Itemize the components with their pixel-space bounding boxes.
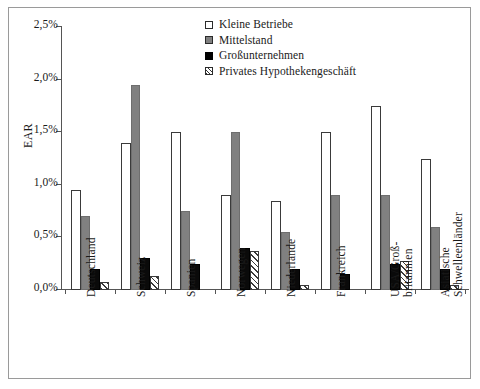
bar xyxy=(100,282,110,290)
bar xyxy=(221,195,231,290)
x-axis-category-label: Norwegen xyxy=(235,248,248,298)
bar xyxy=(150,276,160,290)
y-axis-tick-label: 2,0% xyxy=(34,71,58,83)
x-axis-category-label: Deutschland xyxy=(85,237,98,297)
x-axis-tick-mark xyxy=(215,290,216,294)
x-axis-category-label: Schweiz xyxy=(135,257,148,297)
bar xyxy=(71,190,81,290)
x-axis-tick-mark xyxy=(465,290,466,294)
x-axis-category-label: Frankreich xyxy=(335,245,348,297)
x-axis-tick-mark xyxy=(315,290,316,294)
y-axis-tick-label: 1,0% xyxy=(34,176,58,188)
x-axis-tick-mark xyxy=(415,290,416,294)
x-axis-category-label: USA/Groß-britannien xyxy=(389,242,414,297)
y-axis-tick-label: 1,5% xyxy=(34,123,58,135)
x-axis-tick-mark xyxy=(65,290,66,294)
chart-figure-frame: Kleine Betriebe Mittelstand Großunterneh… xyxy=(8,7,471,379)
x-axis-tick-mark xyxy=(265,290,266,294)
bar xyxy=(171,132,181,290)
x-axis-tick-mark xyxy=(165,290,166,294)
y-axis-line xyxy=(61,26,62,290)
x-axis-category-label: AsiatischeSchwelleenländer xyxy=(439,212,464,297)
bar xyxy=(121,143,131,290)
bar xyxy=(321,132,331,290)
bar xyxy=(421,159,431,291)
y-axis-tick-label: 2,5% xyxy=(34,18,58,30)
bar xyxy=(250,251,260,290)
x-axis-category-label: Niederlande xyxy=(285,239,298,297)
y-axis-tick-label: 0,5% xyxy=(34,228,58,240)
bar xyxy=(371,106,381,290)
bar xyxy=(300,285,310,290)
y-axis-tick-label: 0,0% xyxy=(34,281,58,293)
bar xyxy=(271,201,281,290)
x-axis-category-label: Spanien xyxy=(185,259,198,297)
x-axis-tick-mark xyxy=(365,290,366,294)
x-axis-tick-mark xyxy=(115,290,116,294)
